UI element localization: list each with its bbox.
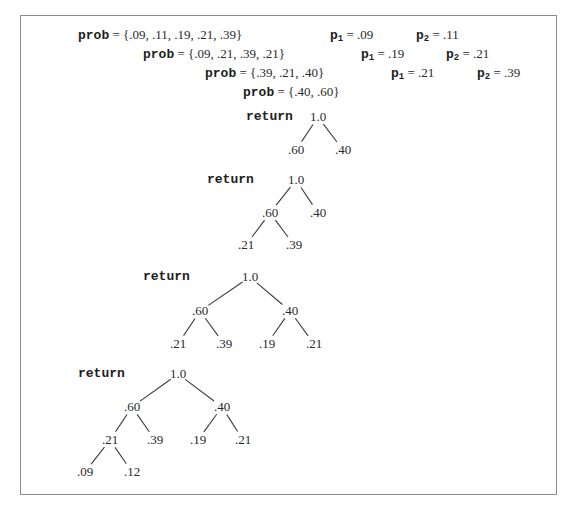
p2-subscript: 2: [454, 53, 459, 63]
tree-node: .39: [216, 337, 232, 351]
p2-subscript: 2: [424, 34, 429, 44]
prob-step: prob = {.40, .60}: [243, 85, 340, 100]
return-keyword: return: [143, 270, 190, 284]
p1-keyword: p: [391, 66, 399, 81]
tree-edge: [185, 379, 214, 401]
tree-edge: [140, 379, 171, 401]
tree-node: .60: [288, 143, 304, 157]
tree-root-node: 1.0: [170, 367, 186, 381]
equals-sign: =: [109, 27, 123, 42]
prob-step: prob = {.09, .11, .19, .21, .39}: [78, 28, 242, 43]
tree-edge: [276, 187, 290, 205]
tree-node: .40: [310, 206, 326, 220]
tree-edge: [252, 220, 265, 237]
p2-subscript: 2: [485, 72, 490, 82]
prob-value: {.39, .21, .40}: [250, 65, 324, 80]
p1-value: = .09: [343, 27, 373, 42]
tree-edge: [208, 282, 242, 305]
tree-edge: [275, 220, 288, 237]
return-keyword: return: [246, 110, 293, 124]
p1-annotation: p1 = .09: [330, 28, 373, 44]
p2-value: = .21: [459, 46, 489, 61]
equals-sign: =: [174, 46, 188, 61]
tree-node: .40: [214, 400, 230, 414]
equals-sign: =: [274, 84, 288, 99]
p1-subscript: 1: [338, 34, 343, 44]
p2-annotation: p2 = .39: [477, 66, 520, 82]
prob-value: {.40, .60}: [288, 84, 339, 99]
tree-edge: [204, 414, 217, 432]
prob-keyword: prob: [78, 28, 109, 43]
tree-edge: [273, 318, 285, 335]
tree-node: .40: [282, 304, 298, 318]
return-keyword: return: [78, 367, 125, 381]
prob-keyword: prob: [205, 66, 236, 81]
p1-annotation: p1 = .19: [361, 47, 404, 63]
p1-subscript: 1: [369, 53, 374, 63]
tree-node: .21: [170, 337, 186, 351]
tree-node: .19: [259, 337, 275, 351]
tree-edge: [91, 447, 104, 464]
tree-root-node: 1.0: [242, 270, 258, 284]
tree-edge: [116, 414, 127, 431]
equals-sign: =: [236, 65, 250, 80]
tree-node: .19: [190, 433, 206, 447]
p2-value: = .39: [490, 65, 520, 80]
p2-value: = .11: [429, 27, 459, 42]
tree-node: .39: [147, 433, 163, 447]
prob-keyword: prob: [143, 47, 174, 62]
tree-node: .40: [335, 143, 351, 157]
prob-step: prob = {.09, .21, .39, .21}: [143, 47, 285, 62]
prob-keyword: prob: [243, 85, 274, 100]
tree-edge: [295, 318, 308, 336]
tree-node: .09: [77, 465, 93, 479]
p2-annotation: p2 = .11: [416, 28, 459, 44]
tree-node: .21: [238, 238, 254, 252]
tree-edge: [323, 124, 337, 142]
p2-annotation: p2 = .21: [446, 47, 489, 63]
tree-node: .60: [192, 304, 208, 318]
tree-edge: [257, 283, 283, 305]
p2-keyword: p: [446, 47, 454, 62]
p2-keyword: p: [477, 66, 485, 81]
tree-edge: [184, 318, 195, 335]
tree-node: .12: [124, 465, 140, 479]
p2-keyword: p: [416, 28, 424, 43]
prob-value: {.09, .11, .19, .21, .39}: [123, 27, 242, 42]
tree-node: .39: [286, 238, 302, 252]
tree-root-node: 1.0: [288, 173, 304, 187]
tree-edge: [115, 447, 126, 463]
tree-edge: [227, 415, 238, 432]
p1-value: = .21: [404, 65, 434, 80]
tree-edge: [301, 187, 312, 204]
tree-node: .21: [235, 433, 251, 447]
tree-edge: [137, 414, 149, 431]
p1-subscript: 1: [399, 72, 404, 82]
prob-value: {.09, .21, .39, .21}: [188, 46, 285, 61]
tree-node: .60: [262, 206, 278, 220]
tree-node: .60: [124, 400, 140, 414]
p1-value: = .19: [374, 46, 404, 61]
prob-step: prob = {.39, .21, .40}: [205, 66, 324, 81]
tree-edge: [205, 318, 218, 336]
tree-node: .21: [306, 337, 322, 351]
return-keyword: return: [207, 173, 254, 187]
p1-annotation: p1 = .21: [391, 66, 434, 82]
tree-edge: [302, 124, 313, 141]
p1-keyword: p: [361, 47, 369, 62]
p1-keyword: p: [330, 28, 338, 43]
tree-root-node: 1.0: [310, 110, 326, 124]
tree-node: .21: [102, 433, 118, 447]
